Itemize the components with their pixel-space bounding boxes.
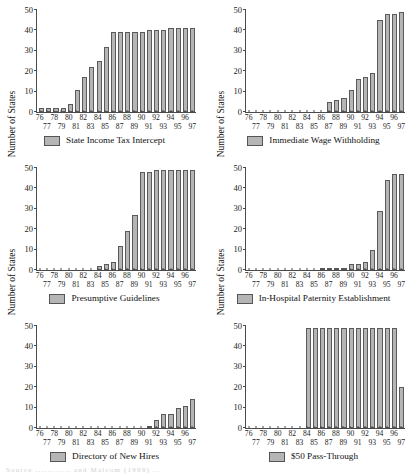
legend-label: Presumptive Guidelines: [71, 294, 159, 303]
y-tick-label: 50: [25, 164, 38, 173]
x-tick-label: 81: [281, 439, 289, 447]
bar-slot: [283, 10, 290, 112]
x-tick-label: 87: [325, 123, 333, 131]
bar-slot: [254, 10, 261, 112]
y-tick-label: 40: [234, 26, 247, 35]
x-tick-label: 91: [354, 439, 362, 447]
x-tick-label: 82: [288, 272, 296, 280]
x-tick-label: 78: [50, 272, 58, 280]
x-tick-label: 97: [189, 123, 197, 131]
six-panel-bar-chart-figure: Number of States010203040507677787980818…: [0, 0, 418, 476]
x-tick-label: 76: [36, 430, 44, 438]
bar-slot: [247, 10, 254, 112]
x-tick-label: 94: [376, 430, 384, 438]
bar: [313, 328, 318, 428]
x-tick-mark: [105, 268, 106, 271]
bar-slot: [189, 10, 196, 112]
x-tick-label: 83: [296, 281, 304, 289]
y-tick-label: 20: [25, 67, 38, 76]
bar-slot: [269, 168, 276, 270]
x-tick-label: 81: [281, 123, 289, 131]
x-tick-mark: [401, 268, 402, 271]
bar-slot: [153, 168, 160, 270]
x-tick-mark: [90, 110, 91, 113]
y-axis-label: Number of States: [7, 230, 17, 334]
y-axis-label: Number of States: [216, 72, 226, 176]
x-tick-label: 76: [245, 114, 253, 122]
y-tick-label: 30: [234, 363, 247, 372]
x-tick-label: 95: [383, 439, 391, 447]
bar: [97, 61, 102, 112]
legend-swatch-icon: [50, 452, 66, 462]
y-tick-label: 10: [25, 403, 38, 412]
x-tick-mark: [255, 268, 256, 271]
x-tick-label: 85: [101, 439, 109, 447]
chart-panel-4: Number of States010203040507677787980818…: [209, 158, 418, 316]
x-tick-label: 82: [288, 114, 296, 122]
x-tick-mark: [285, 268, 286, 271]
bar-slot: [312, 10, 319, 112]
bar: [176, 408, 181, 428]
bar-slot: [167, 168, 174, 270]
x-tick-label: 86: [318, 430, 326, 438]
bar-slot: [391, 10, 398, 112]
bar-slot: [297, 10, 304, 112]
bar-slot: [348, 168, 355, 270]
x-tick-label: 80: [65, 272, 73, 280]
x-tick-mark: [401, 426, 402, 429]
x-axis-ticks: 7677787980818283848586878889909192939495…: [245, 271, 405, 293]
bar-slot: [110, 168, 117, 270]
x-tick-label: 83: [87, 123, 95, 131]
bar-slot: [398, 326, 405, 428]
bar-slot: [369, 10, 376, 112]
y-axis-label-wrap: Number of States: [9, 326, 21, 429]
bar-slot: [117, 168, 124, 270]
x-tick-label: 84: [303, 114, 311, 122]
y-axis-label: Number of States: [7, 0, 17, 18]
x-tick-label: 77: [43, 281, 51, 289]
x-tick-label: 89: [130, 123, 138, 131]
x-tick-label: 91: [145, 281, 153, 289]
x-tick-label: 97: [398, 281, 406, 289]
x-axis-ticks: 7677787980818283848586878889909192939495…: [36, 271, 196, 293]
bar-slot: [60, 10, 67, 112]
bar: [356, 79, 361, 112]
legend-swatch-icon: [49, 294, 65, 304]
bar-slot: [355, 326, 362, 428]
x-tick-label: 89: [339, 439, 347, 447]
x-tick-label: 89: [339, 123, 347, 131]
y-tick-label: 40: [234, 342, 247, 351]
y-tick-label: 50: [234, 164, 247, 173]
bar-slot: [74, 326, 81, 428]
bar-slot: [74, 10, 81, 112]
x-tick-mark: [328, 268, 329, 271]
x-tick-mark: [386, 268, 387, 271]
bar-slot: [38, 10, 45, 112]
plot-area: 01020304050: [245, 10, 405, 113]
x-tick-label: 87: [116, 123, 124, 131]
bar-series: [37, 10, 196, 112]
bar: [118, 246, 123, 270]
x-tick-label: 97: [398, 123, 406, 131]
x-tick-mark: [372, 268, 373, 271]
bar: [140, 32, 145, 112]
bar-slot: [362, 326, 369, 428]
bar-slot: [96, 168, 103, 270]
x-tick-mark: [134, 426, 135, 429]
bar-slot: [131, 326, 138, 428]
bar-slot: [67, 168, 74, 270]
bar-slot: [160, 10, 167, 112]
bar-slot: [60, 168, 67, 270]
bar: [132, 215, 137, 270]
bar: [161, 170, 166, 270]
x-tick-label: 96: [390, 430, 398, 438]
bar: [399, 174, 404, 270]
bar: [334, 328, 339, 428]
x-tick-label: 86: [318, 114, 326, 122]
bar-slot: [45, 326, 52, 428]
x-tick-label: 93: [368, 281, 376, 289]
bar-slot: [81, 326, 88, 428]
x-tick-label: 94: [167, 114, 175, 122]
bar-slot: [81, 168, 88, 270]
x-tick-label: 91: [145, 439, 153, 447]
